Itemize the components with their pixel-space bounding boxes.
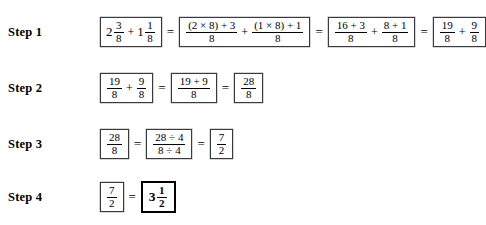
fraction: 288 xyxy=(107,132,122,157)
fraction-term: (2 × 8) + 38 xyxy=(185,20,238,45)
step-label: Step 1 xyxy=(0,25,100,40)
fraction: 8 + 18 xyxy=(382,20,409,45)
fraction: 72 xyxy=(107,185,117,210)
equals-sign: = xyxy=(153,80,170,96)
plus-sign: + xyxy=(368,25,381,40)
expression-box: 238+118 xyxy=(100,17,162,48)
fraction-denominator: 8 xyxy=(382,32,409,45)
equals-sign: = xyxy=(217,80,234,96)
fraction-term: 19 + 98 xyxy=(177,76,211,101)
fraction-term: 288 xyxy=(240,76,257,101)
mixed-number: 238 xyxy=(106,20,125,45)
plus-sign: + xyxy=(456,25,469,40)
fraction-term: 198 xyxy=(106,76,123,101)
fraction-numerator: 3 xyxy=(114,20,124,32)
fraction: (1 × 8) + 18 xyxy=(252,20,303,45)
step-expression: 198+98=19 + 98=288 xyxy=(100,73,478,104)
fraction-term: 72 xyxy=(216,132,228,157)
expression-box: 72 xyxy=(100,182,124,213)
whole-number-part: 3 xyxy=(149,189,156,205)
expression-box: 16 + 38+8 + 18 xyxy=(328,17,416,48)
fraction-denominator: 8 xyxy=(186,32,237,45)
fraction-denominator: 8 ÷ 4 xyxy=(153,144,185,157)
fraction-term: 98 xyxy=(469,20,481,45)
step-row: Step 2198+98=19 + 98=288 xyxy=(0,66,478,110)
fraction-denominator: 8 xyxy=(137,88,147,101)
fraction-term: 98 xyxy=(136,76,148,101)
equals-sign: = xyxy=(124,189,141,205)
fraction: 288 xyxy=(241,76,256,101)
plus-sign: + xyxy=(125,25,138,40)
fraction-term: (1 × 8) + 18 xyxy=(251,20,304,45)
step-expression: 72=312 xyxy=(100,181,478,214)
expression-box: 198+98 xyxy=(433,17,486,48)
mixed-number: 312 xyxy=(149,185,168,210)
expression-box: 198+98 xyxy=(100,73,153,104)
fraction: 28 ÷ 48 ÷ 4 xyxy=(153,132,185,157)
fraction-term: 198 xyxy=(439,20,456,45)
fraction-numerator: 28 xyxy=(241,76,256,88)
equals-sign: = xyxy=(129,136,146,152)
whole-number-part: 1 xyxy=(137,24,144,40)
fraction: 198 xyxy=(440,20,455,45)
step-label: Step 2 xyxy=(0,81,100,96)
fraction-numerator: (1 × 8) + 1 xyxy=(252,20,303,32)
step-label: Step 4 xyxy=(0,190,100,205)
fraction-denominator: 8 xyxy=(440,32,455,45)
expression-box: (2 × 8) + 38+(1 × 8) + 18 xyxy=(179,17,310,48)
fraction-denominator: 2 xyxy=(217,144,227,157)
fraction-numerator: 28 ÷ 4 xyxy=(153,132,185,144)
expression-box: 288 xyxy=(234,73,263,104)
fraction-numerator: (2 × 8) + 3 xyxy=(186,20,237,32)
fraction: 19 + 98 xyxy=(178,76,210,101)
expression-box: 19 + 98 xyxy=(171,73,217,104)
step-row: Step 472=312 xyxy=(0,176,478,218)
expression-box: 72 xyxy=(210,129,234,160)
step-expression: 238+118=(2 × 8) + 38+(1 × 8) + 18=16 + 3… xyxy=(100,17,486,48)
fraction: 12 xyxy=(157,185,167,210)
equals-sign: = xyxy=(162,24,179,40)
fraction-numerator: 19 xyxy=(440,20,455,32)
expression-box: 28 ÷ 48 ÷ 4 xyxy=(146,129,192,160)
fraction-numerator: 16 + 3 xyxy=(335,20,367,32)
fraction-numerator: 7 xyxy=(217,132,227,144)
fraction-term: 72 xyxy=(106,185,118,210)
mixed-number: 118 xyxy=(137,20,156,45)
fraction-numerator: 9 xyxy=(137,76,147,88)
fraction: 98 xyxy=(137,76,147,101)
plus-sign: + xyxy=(238,25,251,40)
fraction-denominator: 8 xyxy=(335,32,367,45)
fraction: 18 xyxy=(145,20,155,45)
fraction-denominator: 8 xyxy=(241,88,256,101)
equals-sign: = xyxy=(310,24,327,40)
step-expression: 288=28 ÷ 48 ÷ 4=72 xyxy=(100,129,478,160)
fraction-numerator: 19 + 9 xyxy=(178,76,210,88)
equals-sign: = xyxy=(415,24,432,40)
final-answer-box: 312 xyxy=(141,181,176,214)
whole-number-part: 2 xyxy=(106,24,113,40)
fraction: 16 + 38 xyxy=(335,20,367,45)
plus-sign: + xyxy=(123,81,136,96)
fraction-numerator: 8 + 1 xyxy=(382,20,409,32)
step-row: Step 1238+118=(2 × 8) + 38+(1 × 8) + 18=… xyxy=(0,8,478,56)
fraction-numerator: 9 xyxy=(470,20,480,32)
fraction-numerator: 28 xyxy=(107,132,122,144)
fraction-denominator: 8 xyxy=(145,32,155,45)
step-row: Step 3288=28 ÷ 48 ÷ 4=72 xyxy=(0,122,478,166)
fraction-numerator: 19 xyxy=(107,76,122,88)
fraction: 98 xyxy=(470,20,480,45)
fraction-denominator: 8 xyxy=(252,32,303,45)
fraction-numerator: 7 xyxy=(107,185,117,197)
fraction-term: 28 ÷ 48 ÷ 4 xyxy=(152,132,186,157)
fraction-denominator: 8 xyxy=(107,88,122,101)
fraction-denominator: 2 xyxy=(107,197,117,210)
equals-sign: = xyxy=(192,136,209,152)
fraction: 72 xyxy=(217,132,227,157)
fraction: 198 xyxy=(107,76,122,101)
fraction: 38 xyxy=(114,20,124,45)
fraction-term: 288 xyxy=(106,132,123,157)
fraction-denominator: 8 xyxy=(178,88,210,101)
fraction-numerator: 1 xyxy=(145,20,155,32)
expression-box: 288 xyxy=(100,129,129,160)
